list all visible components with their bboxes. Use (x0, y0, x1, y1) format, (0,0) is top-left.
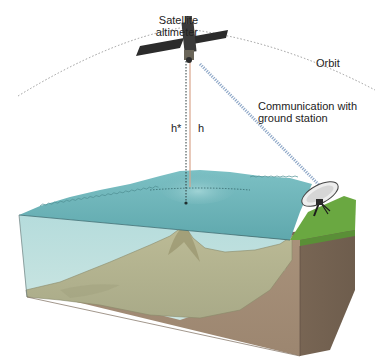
satellite-label: Satellite altimeter (138, 14, 198, 38)
communication-label-line1: Communication with (258, 100, 357, 112)
orbit-label: Orbit (316, 57, 340, 69)
h-label: h (198, 122, 204, 134)
diagram-canvas (0, 0, 377, 364)
satellite-label-line1: Satellite (138, 14, 198, 26)
h-star-label: h* (171, 122, 181, 134)
communication-label-line2: ground station (258, 112, 357, 124)
satellite-altimetry-diagram: Satellite altimeter Orbit Communication … (0, 0, 377, 364)
signal-beam (200, 64, 322, 188)
satellite-label-line2: altimeter (138, 26, 198, 38)
communication-label: Communication with ground station (258, 100, 357, 124)
solar-panel-left (136, 38, 184, 56)
